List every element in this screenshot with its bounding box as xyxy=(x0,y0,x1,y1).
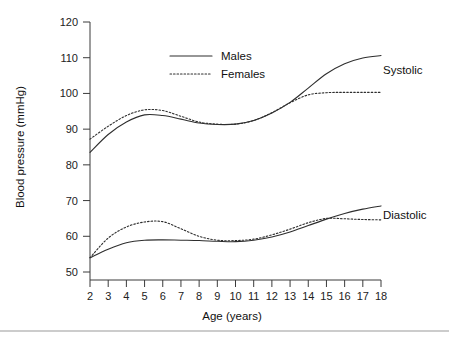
chart-canvas: 5060708090100110120 23456789101112131415… xyxy=(0,0,449,342)
x-tick-label: 7 xyxy=(178,290,184,302)
x-tick-label: 2 xyxy=(87,290,93,302)
y-tick-label: 120 xyxy=(60,16,78,28)
y-tick-label: 70 xyxy=(66,195,78,207)
x-tick-label: 16 xyxy=(339,290,351,302)
x-tick-label: 13 xyxy=(284,290,296,302)
x-tick-label: 15 xyxy=(320,290,332,302)
x-axis-title: Age (years) xyxy=(202,310,262,322)
x-tick-label: 6 xyxy=(160,290,166,302)
x-tick-label: 8 xyxy=(196,290,202,302)
x-tick-label: 12 xyxy=(266,290,278,302)
y-axis-title: Blood pressure (mmHg) xyxy=(14,86,26,208)
x-tick-label: 17 xyxy=(357,290,369,302)
annotation-systolic: Systolic xyxy=(383,64,423,76)
x-tick-label: 10 xyxy=(229,290,241,302)
x-tick-label: 18 xyxy=(375,290,387,302)
y-tick-label: 60 xyxy=(66,230,78,242)
legend-label-females: Females xyxy=(221,68,265,80)
x-tick-label: 4 xyxy=(123,290,129,302)
x-tick-label: 5 xyxy=(142,290,148,302)
x-tick-label: 11 xyxy=(248,290,259,302)
legend-label-males: Males xyxy=(221,50,252,62)
y-tick-label: 110 xyxy=(60,52,78,64)
annotation-diastolic: Diastolic xyxy=(383,209,427,221)
y-tick-label: 80 xyxy=(66,159,78,171)
x-tick-label: 3 xyxy=(105,290,111,302)
blood-pressure-chart-figure: 5060708090100110120 23456789101112131415… xyxy=(0,0,449,342)
x-tick-label: 14 xyxy=(302,290,314,302)
y-tick-label: 90 xyxy=(66,123,78,135)
y-tick-label: 50 xyxy=(66,266,78,278)
x-tick-label: 9 xyxy=(214,290,220,302)
y-tick-label: 100 xyxy=(60,87,78,99)
